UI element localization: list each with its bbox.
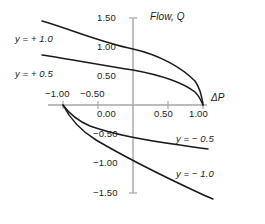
x-axis-title: ΔP — [211, 92, 225, 103]
curve-y-minus-1.0 — [63, 105, 213, 199]
x-tick-label-050: 0.50 — [154, 108, 173, 119]
x-tick-label-100: 1.00 — [189, 108, 208, 119]
series-label-y-plus-1.0: y = + 1.0 — [15, 33, 53, 44]
flow-vs-pressure-chart: Flow, Q ΔP 1.50 1.00 0.50 0.00 −0.50 −1.… — [0, 0, 265, 224]
series-label-y-minus-0.5: y = − 0.5 — [176, 133, 214, 144]
x-tick-label-neg100: −1.00 — [45, 88, 70, 99]
y-tick-label-100: 1.00 — [97, 41, 116, 52]
x-tick-label-neg050: −0.50 — [80, 88, 105, 99]
y-tick-label-neg100: −1.00 — [93, 157, 118, 168]
series-label-y-minus-1.0: y = − 1.0 — [176, 168, 214, 179]
y-tick-label-neg150: −1.50 — [93, 187, 118, 198]
y-tick-label-neg050: −0.50 — [93, 128, 118, 139]
y-tick-label-050: 0.50 — [97, 70, 116, 81]
y-tick-label-150: 1.50 — [97, 12, 116, 23]
series-label-y-plus-0.5: y = + 0.5 — [15, 68, 53, 79]
y-axis-title: Flow, Q — [150, 11, 185, 22]
y-tick-label-000: 0.00 — [97, 108, 116, 119]
